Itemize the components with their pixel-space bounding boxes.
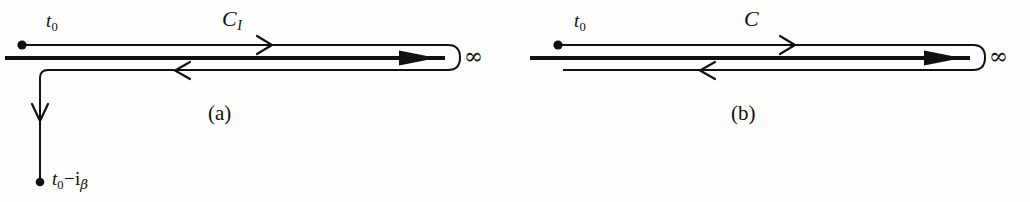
endpoint-label-a-sub: 0 <box>57 178 63 192</box>
endpoint-label-a-minus: − <box>64 168 75 189</box>
start-label-a-sub: 0 <box>52 20 58 34</box>
start-point-dot-b <box>553 40 562 49</box>
contour-label-a-sub: I <box>237 17 242 33</box>
turnaround-cap-a <box>443 45 460 70</box>
return-and-vertical-branch-a <box>40 70 443 182</box>
endpoint-label-a: t0−iβ <box>52 169 88 192</box>
panel-caption-a: (a) <box>208 103 231 124</box>
figure-root: t0 CI ∞ (a) t0−iβ <box>0 0 1030 202</box>
real-axis-arrowhead-b <box>924 51 962 66</box>
contour-label-a: CI <box>222 8 242 32</box>
infinity-label-b: ∞ <box>989 45 1008 68</box>
start-point-dot-a <box>17 40 26 49</box>
turnaround-cap-b <box>968 45 985 70</box>
real-axis-arrowhead-a <box>399 51 437 66</box>
contour-label-a-var: C <box>222 6 237 31</box>
panel-caption-b: (b) <box>731 103 756 124</box>
infinity-label-a: ∞ <box>464 45 483 68</box>
endpoint-label-a-beta: β <box>80 176 88 192</box>
start-label-b-sub: 0 <box>580 20 586 34</box>
start-label-b-var: t <box>574 10 579 31</box>
start-label-a-var: t <box>46 10 51 31</box>
contour-label-b: C <box>744 8 759 32</box>
start-label-a: t0 <box>46 11 58 33</box>
contour-diagram-b <box>515 0 1030 202</box>
contour-panel-b: t0 C ∞ (b) <box>515 0 1030 202</box>
end-point-dot-a <box>36 178 45 187</box>
contour-label-b-var: C <box>744 6 759 31</box>
contour-panel-a: t0 CI ∞ (a) t0−iβ <box>0 0 515 202</box>
start-label-b: t0 <box>574 11 586 33</box>
